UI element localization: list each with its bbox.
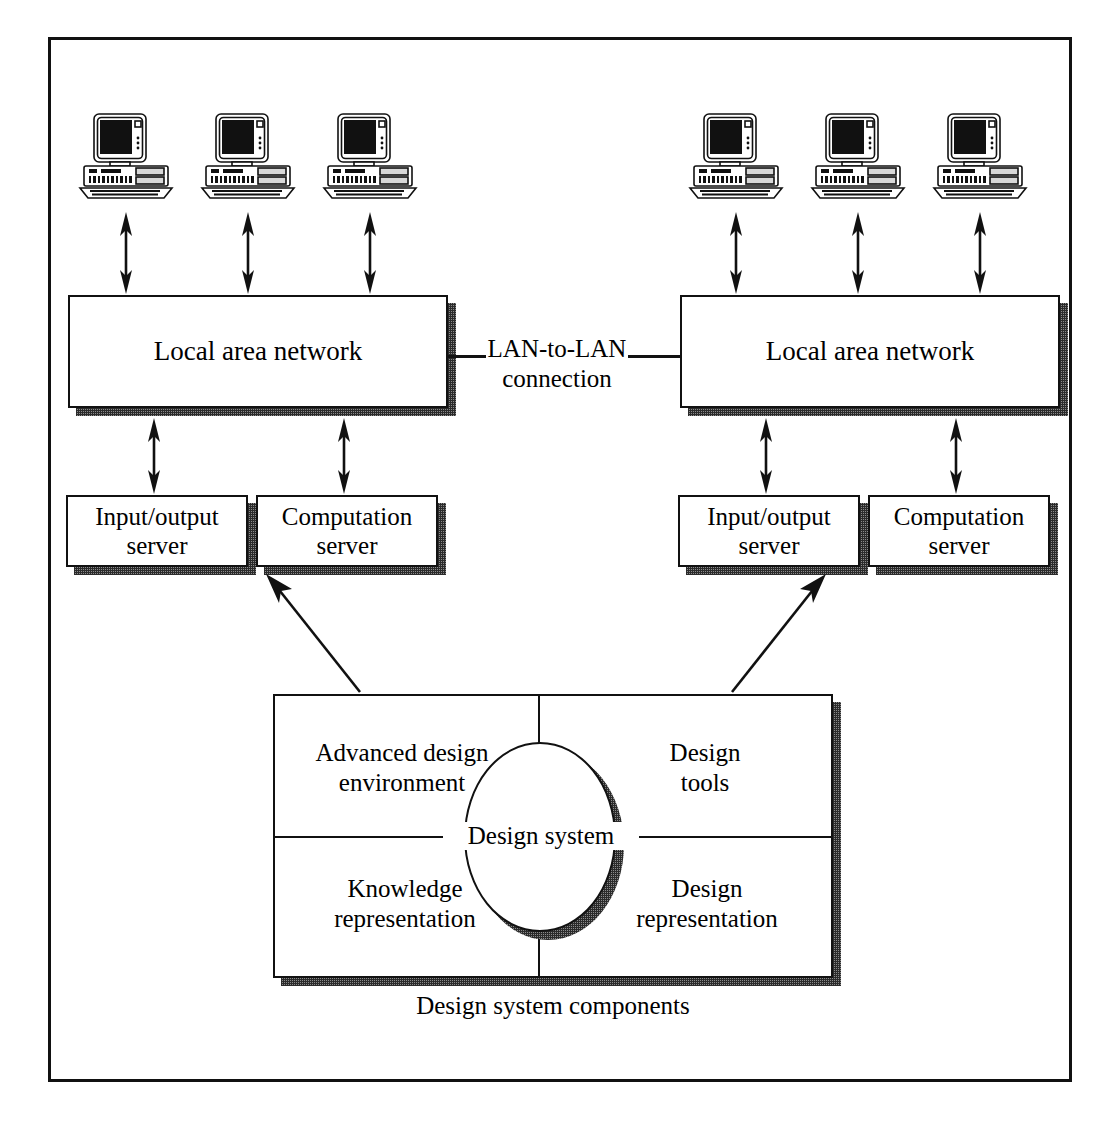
io-server-box-right: Input/output server [678, 495, 860, 567]
desktop-computer-icon [810, 112, 906, 200]
computation-server-box-left: Computation server [256, 495, 438, 567]
io-server-right-label: Input/output server [707, 502, 831, 561]
arrow-design-to-computation-server-left [262, 572, 372, 701]
figure-canvas: Local area network LAN-to-LAN connection… [0, 0, 1120, 1147]
computation-server-left-label: Computation server [282, 502, 413, 561]
workstation-left-3 [322, 112, 418, 200]
lan-box-right: Local area network [680, 295, 1060, 408]
arrow-workstation-left-1-to-lan [112, 212, 140, 298]
workstation-left-2 [200, 112, 296, 200]
lan-to-lan-label-line1: LAN-to-LAN [488, 335, 627, 362]
arrow-lan-right-to-computation-server [942, 418, 970, 498]
computation-server-box-right: Computation server [868, 495, 1050, 567]
lan-to-lan-label-line2: connection [486, 364, 628, 394]
workstation-right-3 [932, 112, 1028, 200]
arrow-workstation-left-3-to-lan [356, 212, 384, 298]
desktop-computer-icon [200, 112, 296, 200]
lan-box-left: Local area network [68, 295, 448, 408]
lan-right-label: Local area network [766, 336, 974, 368]
io-server-box-left: Input/output server [66, 495, 248, 567]
lan-to-lan-connection-label: LAN-to-LAN connection [486, 334, 628, 394]
arrow-lan-left-to-io-server [140, 418, 168, 498]
workstation-right-1 [688, 112, 784, 200]
arrow-design-to-io-server-right [720, 572, 830, 701]
desktop-computer-icon [322, 112, 418, 200]
arrow-workstation-right-1-to-lan [722, 212, 750, 298]
design-system-components-box: Design system Advanced design environmen… [273, 694, 833, 978]
arrow-workstation-right-3-to-lan [966, 212, 994, 298]
arrow-lan-right-to-io-server [752, 418, 780, 498]
workstation-left-1 [78, 112, 174, 200]
arrow-workstation-left-2-to-lan [234, 212, 262, 298]
lan-left-label: Local area network [154, 336, 362, 368]
desktop-computer-icon [932, 112, 1028, 200]
workstation-right-2 [810, 112, 906, 200]
computation-server-right-label: Computation server [894, 502, 1025, 561]
desktop-computer-icon [688, 112, 784, 200]
figure-caption: Design system components [273, 992, 833, 1020]
desktop-computer-icon [78, 112, 174, 200]
quadrant-label-design-tools: Design tools [605, 738, 805, 798]
arrow-lan-left-to-computation-server [330, 418, 358, 498]
design-system-circle-label: Design system [443, 822, 639, 850]
arrow-workstation-right-2-to-lan [844, 212, 872, 298]
io-server-left-label: Input/output server [95, 502, 219, 561]
quadrant-label-design-representation: Design representation [593, 874, 821, 934]
